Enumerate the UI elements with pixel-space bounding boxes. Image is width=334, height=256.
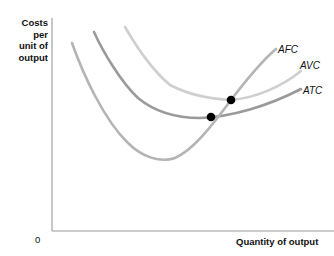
x-axis-title: Quantity of output: [236, 236, 318, 248]
y-axis-title: Costs per unit of output: [4, 17, 48, 63]
afc-curve: [72, 43, 276, 160]
afc-atc-intersection-dot: [207, 113, 216, 122]
avc-curve: [125, 27, 301, 100]
atc-curve-label: ATC: [303, 85, 322, 96]
cost-curves-plot: [0, 0, 334, 256]
atc-curve: [94, 32, 301, 118]
origin-label: 0: [35, 234, 40, 245]
afc-curve-label: AFC: [278, 44, 298, 55]
avc-curve-label: AVC: [300, 60, 320, 71]
cost-curves-figure: Costs per unit of output Quantity of out…: [0, 0, 334, 256]
afc-avc-intersection-dot: [227, 96, 236, 105]
